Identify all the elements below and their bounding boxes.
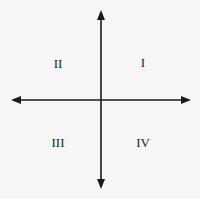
quadrant-label-i: I [141, 56, 145, 69]
x-axis-left-arrow-icon [11, 96, 21, 104]
quadrant-label-iv: IV [136, 136, 150, 149]
quadrant-diagram: II I III IV [0, 0, 200, 199]
quadrant-label-ii: II [54, 57, 63, 70]
quadrant-label-iii: III [52, 136, 65, 149]
y-axis-up-arrow-icon [97, 10, 105, 20]
y-axis-down-arrow-icon [97, 179, 105, 189]
x-axis-right-arrow-icon [181, 96, 191, 104]
axes-graphic [0, 0, 200, 199]
